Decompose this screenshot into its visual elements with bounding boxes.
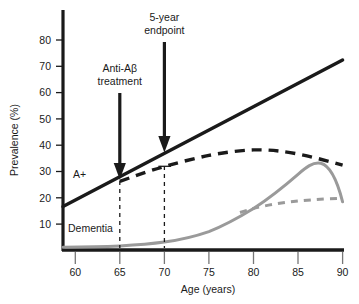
y-tick-label-70: 70 bbox=[39, 60, 51, 72]
prevalence-chart: 80 70 60 50 40 30 20 10 60 65 70 75 80 8… bbox=[0, 0, 359, 304]
x-tick-label-65: 65 bbox=[114, 266, 126, 278]
chart-svg: 80 70 60 50 40 30 20 10 60 65 70 75 80 8… bbox=[0, 0, 359, 304]
x-tick-label-90: 90 bbox=[337, 266, 349, 278]
x-tick-label-85: 85 bbox=[292, 266, 304, 278]
y-axis-title: Prevalence (%) bbox=[8, 104, 20, 176]
y-tick-label-60: 60 bbox=[39, 86, 51, 98]
endpoint-annotation-line1: 5-year bbox=[150, 11, 180, 23]
y-tick-label-30: 30 bbox=[39, 165, 51, 177]
x-tick-label-60: 60 bbox=[69, 266, 81, 278]
chart-background bbox=[0, 0, 359, 304]
endpoint-annotation-line2: endpoint bbox=[144, 24, 184, 36]
y-tick-label-80: 80 bbox=[39, 34, 51, 46]
dementia-series-label: Dementia bbox=[68, 222, 113, 234]
y-tick-label-40: 40 bbox=[39, 139, 51, 151]
y-tick-label-20: 20 bbox=[39, 192, 51, 204]
treatment-annotation-line1: Anti-Aβ bbox=[102, 62, 137, 74]
a-plus-series-label: A+ bbox=[73, 168, 86, 180]
x-tick-label-70: 70 bbox=[159, 266, 171, 278]
x-tick-label-75: 75 bbox=[203, 266, 215, 278]
x-tick-label-80: 80 bbox=[248, 266, 260, 278]
treatment-annotation-line2: treatment bbox=[98, 75, 142, 87]
x-axis-title: Age (years) bbox=[181, 283, 235, 295]
y-tick-label-50: 50 bbox=[39, 113, 51, 125]
y-tick-label-10: 10 bbox=[39, 218, 51, 230]
